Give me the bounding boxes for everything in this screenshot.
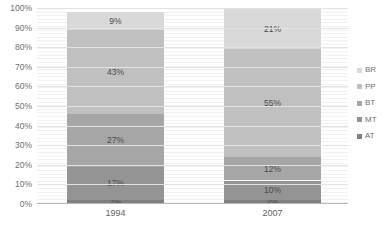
bar-segment-2007-PP[interactable]: 55% (224, 49, 321, 157)
gridline-20 (37, 165, 348, 166)
y-axis-tick-50: 50% (15, 102, 32, 110)
y-axis-tick-100: 100% (10, 4, 32, 12)
bar-segment-label-2007-MT: 10% (264, 185, 281, 195)
chart-title-remnant (45, 0, 345, 2)
gridline-60 (37, 86, 348, 87)
y-axis-tick-60: 60% (15, 82, 32, 90)
legend-item-PP[interactable]: PP (357, 83, 388, 91)
legend-swatch-MT-icon (357, 117, 362, 122)
plot-area: 2%17%27%43%9% 2%10%12%55%21% (37, 8, 348, 204)
legend-item-BR[interactable]: BR (357, 66, 388, 74)
legend-item-BT[interactable]: BT (357, 99, 388, 107)
x-axis-label-1994: 1994 (67, 208, 164, 218)
y-axis-labels: 100%90%80%70%60%50%40%30%20%10%0% (0, 8, 34, 204)
chart-legend: BRPPBTMTAT (357, 66, 388, 140)
y-axis-tick-90: 90% (15, 24, 32, 32)
y-axis-tick-10: 10% (15, 180, 32, 188)
legend-swatch-BT-icon (357, 101, 362, 106)
bar-segment-2007-BR[interactable]: 21% (224, 8, 321, 49)
legend-label-BR: BR (365, 66, 376, 74)
bar-segment-1994-BT[interactable]: 27% (67, 114, 164, 167)
y-axis-tick-30: 30% (15, 141, 32, 149)
gridline-100 (37, 8, 348, 9)
y-axis-tick-20: 20% (15, 161, 32, 169)
gridline-30 (37, 145, 348, 146)
y-axis-tick-70: 70% (15, 63, 32, 71)
x-axis-labels: 1994 2007 (37, 208, 348, 224)
bar-segment-label-1994-BR: 9% (109, 16, 121, 26)
legend-label-BT: BT (365, 99, 375, 107)
x-axis-label-2007: 2007 (224, 208, 321, 218)
bar-segment-2007-BT[interactable]: 12% (224, 157, 321, 181)
bar-segment-label-1994-PP: 43% (107, 67, 124, 77)
legend-item-AT[interactable]: AT (357, 132, 388, 140)
y-axis-tick-40: 40% (15, 122, 32, 130)
gridline-80 (37, 47, 348, 48)
legend-swatch-BR-icon (357, 68, 362, 73)
y-axis-tick-0: 0% (20, 200, 32, 208)
bar-segment-label-2007-BR: 21% (264, 24, 281, 34)
legend-label-MT: MT (365, 116, 377, 124)
legend-swatch-PP-icon (357, 84, 362, 89)
legend-item-MT[interactable]: MT (357, 116, 388, 124)
legend-label-AT: AT (365, 132, 375, 140)
gridline-10 (37, 184, 348, 185)
gridline-70 (37, 67, 348, 68)
gridline-40 (37, 126, 348, 127)
gridline-50 (37, 106, 348, 107)
gridline-90 (37, 28, 348, 29)
legend-label-PP: PP (365, 83, 376, 91)
bar-segment-1994-PP[interactable]: 43% (67, 30, 164, 114)
bar-segment-label-1994-BT: 27% (107, 135, 124, 145)
x-axis-line (37, 203, 348, 204)
y-axis-tick-80: 80% (15, 43, 32, 51)
stacked-bar-chart: 100%90%80%70%60%50%40%30%20%10%0% 2%17%2… (0, 0, 388, 231)
legend-swatch-AT-icon (357, 134, 362, 139)
